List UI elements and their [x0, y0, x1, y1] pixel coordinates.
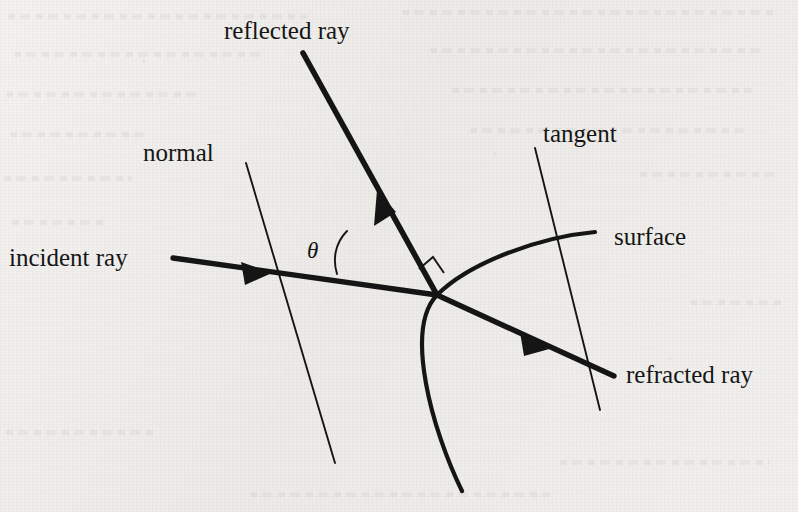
label-tangent: tangent	[543, 121, 617, 146]
incident-ray-line	[173, 258, 437, 295]
label-refracted-ray: refracted ray	[626, 362, 753, 387]
label-theta-angle: θ	[307, 239, 318, 262]
surface-curve	[422, 232, 595, 491]
normal-line	[246, 163, 335, 463]
label-incident-ray: incident ray	[9, 245, 128, 270]
label-normal: normal	[143, 140, 214, 165]
incident-ray-arrowhead	[241, 262, 272, 285]
reflected-ray-line	[303, 53, 437, 295]
label-surface: surface	[614, 224, 686, 249]
label-reflected-ray: reflected ray	[224, 18, 350, 43]
tangent-line	[535, 148, 600, 410]
theta-arc	[335, 231, 347, 274]
figure-canvas: reflected ray normal tangent surface inc…	[0, 0, 798, 512]
